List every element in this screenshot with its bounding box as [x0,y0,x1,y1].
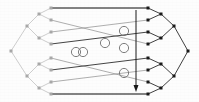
figure-root [0,0,199,102]
diagram-background [0,0,199,102]
left-tree-node [50,19,53,22]
left-tree-node [50,69,53,72]
left-tree-node [50,7,53,10]
left-tree-node [50,57,53,60]
left-tree-node [50,43,53,46]
right-tree-node [160,13,163,16]
right-tree-node [147,81,150,84]
left-tree-node [38,87,41,90]
right-tree-node [147,19,150,22]
left-tree-node [10,50,13,53]
right-tree-node [187,50,190,53]
right-tree-node [147,93,150,96]
network-diagram-svg [0,0,199,102]
left-tree-node [38,13,41,16]
right-tree-node [147,7,150,10]
left-tree-node [26,25,29,28]
right-tree-node [147,57,150,60]
right-tree-node [173,75,176,78]
right-tree-node [160,37,163,40]
right-tree-node [160,63,163,66]
left-tree-node [50,31,53,34]
right-tree-node [160,87,163,90]
right-tree-node [147,31,150,34]
right-tree-node [173,25,176,28]
left-tree-node [38,63,41,66]
right-tree-node [147,69,150,72]
left-tree-node [50,93,53,96]
left-tree-node [50,81,53,84]
left-tree-node [26,75,29,78]
left-tree-node [38,37,41,40]
right-tree-node [147,43,150,46]
